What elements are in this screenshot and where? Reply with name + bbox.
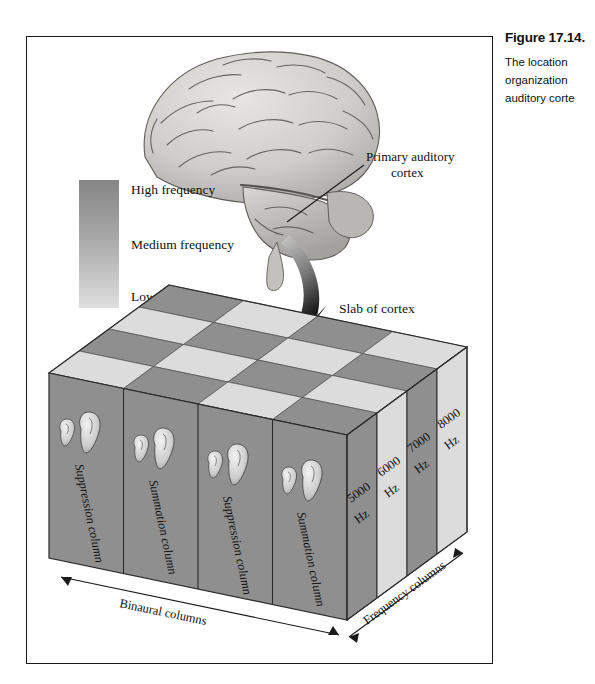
figure-illustration: Primary auditory cortex High frequency M… <box>27 37 491 662</box>
figure-caption: Figure 17.14. The location organization … <box>505 30 595 107</box>
brain-label-line2: cortex <box>391 165 424 180</box>
slab-of-cortex-label: Slab of cortex <box>339 301 415 316</box>
brain-illustration <box>144 52 379 291</box>
figure-frame: Primary auditory cortex High frequency M… <box>26 36 493 664</box>
figure-caption-body: The location organization auditory corte <box>505 54 595 107</box>
caption-line-1: The location <box>505 54 595 72</box>
legend-medium-label: Medium frequency <box>131 237 234 252</box>
caption-line-2: organization <box>505 72 595 90</box>
legend-high-label: High frequency <box>131 182 216 197</box>
binaural-axis-label: Binaural columns <box>118 596 208 628</box>
brain-label-line1: Primary auditory <box>366 149 455 164</box>
figure-caption-title: Figure 17.14. <box>505 30 595 45</box>
caption-line-3: auditory corte <box>505 90 595 108</box>
frequency-gradient-bar <box>79 180 119 308</box>
